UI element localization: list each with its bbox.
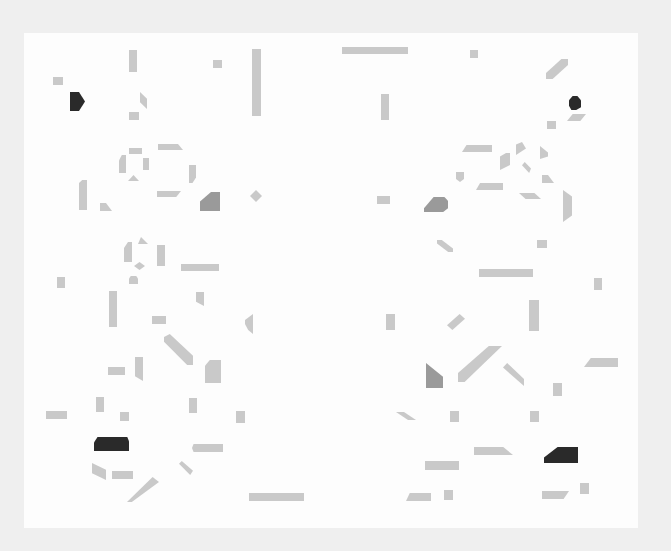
geometric-fragment [406,493,431,501]
geometric-fragment [547,121,556,129]
geometric-fragment [252,49,261,116]
geometric-fragment [476,183,503,190]
geometric-fragment [479,269,533,277]
geometric-fragment [249,493,304,501]
geometric-fragment [236,411,245,423]
geometric-fragment [192,444,223,452]
geometric-fragment [129,50,137,72]
geometric-fragment [553,383,562,396]
geometric-fragment [529,300,539,331]
geometric-fragment [205,360,221,383]
geometric-fragment [594,278,602,290]
geometric-fragment [53,77,63,85]
geometric-fragment [425,461,459,470]
geometric-fragment [213,60,222,68]
geometric-fragment [157,245,165,266]
geometric-fragment [189,398,197,413]
artwork-paper [24,33,638,528]
geometric-fragment [143,158,149,170]
geometric-fragment [377,196,390,204]
geometric-fragment [57,277,65,288]
geometric-fragment [109,291,117,327]
geometric-fragment [537,240,547,248]
geometric-fragment [108,367,125,375]
geometric-fragment [181,264,219,271]
geometric-fragment [129,112,139,120]
geometric-fragment [79,180,87,210]
geometric-fragment [129,148,142,154]
geometric-fragment [462,145,492,152]
geometric-fragment [450,411,459,422]
geometric-fragment [444,490,453,500]
geometric-fragment [112,471,133,479]
geometric-fragment [152,316,166,324]
geometric-fragment [342,47,408,54]
geometric-fragment [386,314,395,330]
geometric-fragment [530,411,539,422]
geometric-fragment [46,411,67,419]
geometric-fragment [129,276,138,284]
geometric-fragment [94,437,129,451]
geometric-fragment [381,94,389,120]
geometric-fragment [96,397,104,412]
geometric-fragment [580,483,589,494]
geometric-fragment [120,412,129,421]
geometric-fragment [470,50,478,58]
